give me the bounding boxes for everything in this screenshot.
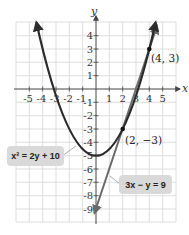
svg-text:4: 4: [87, 30, 93, 41]
svg-text:-8: -8: [83, 190, 93, 201]
svg-text:-2: -2: [83, 110, 93, 121]
parabola-equation: x² = 2y + 10: [11, 151, 60, 161]
x-axis-label: x: [182, 82, 189, 95]
svg-text:4: 4: [146, 93, 152, 104]
svg-text:3: 3: [87, 44, 93, 55]
y-tick-labels: 4 3 2 1 -1 -2 -3 -4 -5 -6 -7 -8 -9: [83, 30, 93, 214]
svg-text:2: 2: [120, 93, 126, 104]
svg-text:5: 5: [160, 93, 166, 104]
svg-text:-4: -4: [37, 93, 47, 104]
svg-text:2: 2: [87, 57, 93, 68]
svg-text:-4: -4: [83, 137, 93, 148]
point-label-4-3: (4, 3): [151, 52, 179, 64]
svg-text:-5: -5: [23, 93, 33, 104]
svg-text:-2: -2: [63, 93, 73, 104]
point-4-3: [147, 47, 152, 52]
point-label-2-neg3: (2, −3): [125, 134, 162, 146]
y-axis-label: y: [90, 5, 98, 18]
svg-text:-1: -1: [83, 97, 93, 108]
line-equation: 3x − y = 9: [125, 180, 166, 190]
point-2-neg3: [120, 127, 125, 132]
svg-text:-9: -9: [83, 204, 93, 215]
svg-text:-3: -3: [83, 124, 93, 135]
graph: x y -5 -4 -3 -2 -1 1 2 3 4 5 4 3 2 1 -1 …: [0, 0, 189, 235]
svg-text:1: 1: [87, 70, 93, 81]
svg-text:-7: -7: [83, 177, 93, 188]
svg-text:1: 1: [106, 93, 112, 104]
svg-text:-6: -6: [83, 164, 93, 175]
